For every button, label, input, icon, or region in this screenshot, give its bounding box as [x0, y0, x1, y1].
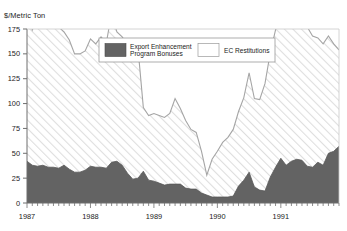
x-axis-tick-label: 1990: [209, 212, 225, 221]
x-axis-tick-label: 1987: [19, 212, 35, 221]
y-axis-tick-label: 0: [16, 199, 20, 208]
legend-swatch-eep-bonuses: [105, 44, 126, 57]
x-axis-tick-label: 1991: [273, 212, 289, 221]
x-axis-ticks: [27, 203, 339, 208]
y-axis-tick-label: 75: [12, 124, 20, 133]
legend-label-eep-line2: Program Bonuses: [130, 50, 183, 58]
legend-label-ec-restitutions: EC Restitutions: [224, 47, 270, 54]
y-axis-tick-label: 50: [12, 149, 20, 158]
y-axis-tick-label: 150: [8, 49, 20, 58]
x-axis-tick-label: 1989: [146, 212, 162, 221]
y-axis-tick-label: 100: [8, 99, 20, 108]
area-chart-plot: 0255075100125150175 19871988198919901991…: [0, 0, 347, 231]
y-axis-tick-label: 25: [12, 174, 20, 183]
y-axis-tick-label: 125: [8, 74, 20, 83]
x-axis-labels: 19871988198919901991: [19, 212, 289, 221]
y-axis-ticks: 0255075100125150175: [8, 25, 27, 208]
chart-legend: Export Enhancement Program Bonuses EC Re…: [99, 38, 275, 62]
y-axis-tick-label: 175: [8, 25, 20, 34]
x-axis-tick-label: 1988: [82, 212, 98, 221]
chart-container: $/Metric Ton 025507: [0, 0, 347, 231]
legend-swatch-ec-restitutions: [198, 44, 219, 57]
